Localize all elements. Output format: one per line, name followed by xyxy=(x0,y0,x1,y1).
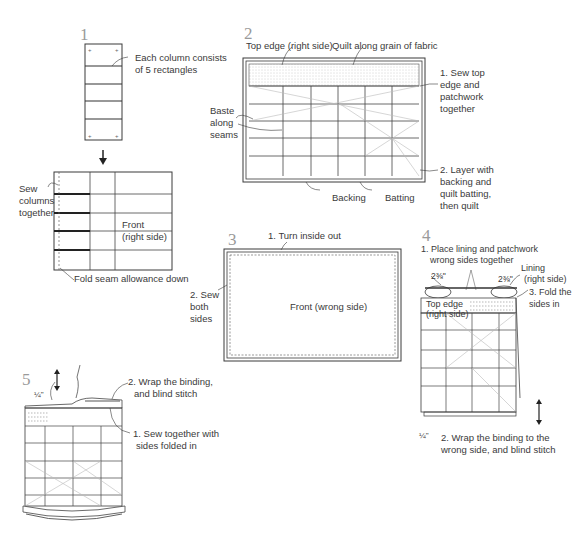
step1-sew-label-3: together xyxy=(19,207,54,219)
step1-column-label: Each column consists xyxy=(135,52,227,64)
step2-backing-label: Backing xyxy=(332,192,366,204)
step2-baste-label: Baste xyxy=(210,105,234,117)
step4-lining-label-2: (right side) xyxy=(524,273,567,285)
svg-text:+: + xyxy=(115,133,119,139)
step3-turn-label: 1. Turn inside out xyxy=(268,230,341,242)
step1-column-drawing: ++ ++ xyxy=(85,44,128,140)
step-number-5: 5 xyxy=(22,370,31,390)
step4-measure-right: 2⅜" xyxy=(498,273,513,285)
step1-sew-label-2: columns xyxy=(19,195,54,207)
svg-text:+: + xyxy=(88,133,92,139)
svg-text:+: + xyxy=(115,47,119,53)
step3-sew-label-2: both xyxy=(190,301,209,313)
step5-wrap-label: 2. Wrap the binding, xyxy=(128,376,213,388)
step4-bag-drawing xyxy=(421,270,528,416)
step2-sew-top-label-2: edge and xyxy=(440,79,480,91)
diagram-artwork: ++ ++ xyxy=(0,0,580,543)
step2-top-edge-label: Top edge (right side) xyxy=(246,40,333,52)
step4-place-label-2: wrong sides together xyxy=(430,254,514,266)
step4-quarter-label: ¼" xyxy=(419,430,429,442)
step5-sew-label-2: sides folded in xyxy=(136,440,197,452)
step1-column-label-2: of 5 rectangles xyxy=(135,64,197,76)
step2-layer-label-4: then quilt xyxy=(440,200,479,212)
step2-layer-label-2: backing and xyxy=(440,176,491,188)
step1-front-label-2: (right side) xyxy=(122,231,167,243)
step1-joined-columns-drawing xyxy=(48,172,172,280)
step4-measure-left: 2⅜" xyxy=(431,270,446,282)
step3-sew-label: 2. Sew xyxy=(190,289,219,301)
step2-quilt-drawing xyxy=(236,47,438,190)
step2-sew-top-label: 1. Sew top xyxy=(440,67,485,79)
double-arrow-icon xyxy=(54,369,60,391)
step5-sew-label: 1. Sew together with xyxy=(133,428,219,440)
step2-batting-label: Batting xyxy=(385,192,415,204)
step-number-1: 1 xyxy=(80,25,89,45)
step3-sew-label-3: sides xyxy=(190,313,212,325)
step3-front-label: Front (wrong side) xyxy=(290,301,367,313)
step2-sew-top-label-3: patchwork xyxy=(440,91,483,103)
step5-wrap-label-2: and blind stitch xyxy=(134,388,197,400)
step1-front-label: Front xyxy=(122,219,144,231)
step5-quarter-label: ¼" xyxy=(34,389,44,401)
step4-wrap-label-2: wrong side, and blind stitch xyxy=(441,444,556,456)
svg-text:+: + xyxy=(88,47,92,53)
step2-sew-top-label-4: together xyxy=(440,103,475,115)
step1-sew-label: Sew xyxy=(19,183,37,195)
step2-layer-label-3: quilt batting, xyxy=(440,188,491,200)
step2-layer-label: 2. Layer with xyxy=(440,164,494,176)
step2-baste-label-2: along xyxy=(210,117,233,129)
step2-quilt-label: Quilt along grain of fabric xyxy=(332,40,438,52)
step-number-3: 3 xyxy=(228,230,237,250)
step4-top-edge-label-2: (right side) xyxy=(426,308,469,320)
step2-baste-label-3: seams xyxy=(210,129,238,141)
step4-fold-label: 3. Fold the xyxy=(529,286,572,298)
double-arrow-icon xyxy=(536,399,542,425)
step4-fold-label-2: sides in xyxy=(529,298,560,310)
arrow-down-icon xyxy=(99,150,107,165)
step4-wrap-label: 2. Wrap the binding to the xyxy=(441,432,550,444)
step1-fold-label: Fold seam allowance down xyxy=(74,273,189,285)
